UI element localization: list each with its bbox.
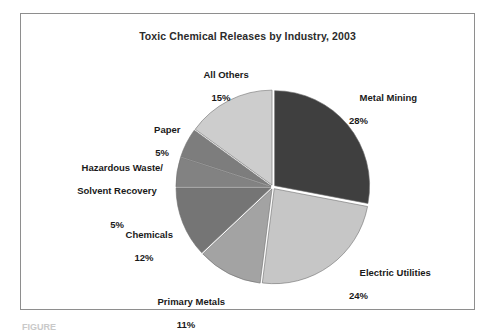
pie-label-metal-mining-value: 28% bbox=[349, 115, 417, 127]
pie-label-electric-utilities-name: Electric Utilities bbox=[360, 267, 431, 278]
pie-label-metal-mining-name: Metal Mining bbox=[360, 92, 418, 103]
pie-label-primary-metals-name: Primary Metals bbox=[157, 296, 225, 307]
pie-label-all-others: All Others 15% bbox=[161, 57, 281, 126]
figure-frame: Toxic Chemical Releases by Industry, 200… bbox=[20, 13, 475, 310]
pie-label-all-others-value: 15% bbox=[161, 92, 281, 104]
pie-label-electric-utilities-value: 24% bbox=[349, 290, 431, 302]
figure-caption: FIGURE bbox=[22, 322, 322, 330]
pie-label-all-others-name: All Others bbox=[203, 69, 248, 80]
pie-label-electric-utilities: Electric Utilities 24% bbox=[349, 255, 431, 324]
pie-label-paper-value: 5% bbox=[117, 147, 207, 159]
pie-label-hazardous-waste-value: 5% bbox=[47, 219, 187, 231]
pie-label-metal-mining: Metal Mining 28% bbox=[349, 80, 417, 149]
pie-label-hazardous-waste-name-line2: Solvent Recovery bbox=[47, 185, 187, 197]
